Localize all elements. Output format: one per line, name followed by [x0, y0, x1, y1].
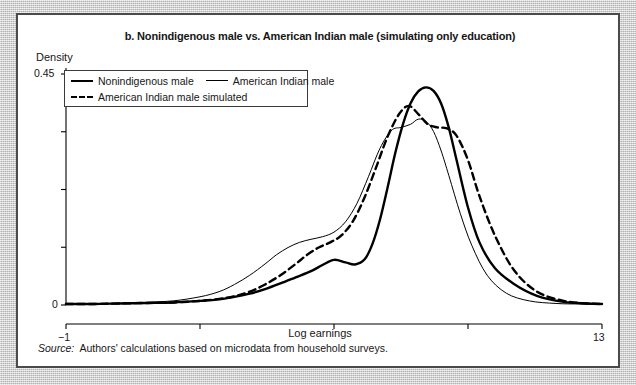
- axis-layer: [61, 68, 602, 329]
- legend-item-american-indian-male-simulated: American Indian male simulated: [71, 91, 247, 103]
- legend-label: American Indian male simulated: [98, 91, 247, 103]
- series-line-american-indian-male: [66, 119, 602, 304]
- legend-item-american-indian-male: American Indian male: [206, 75, 335, 87]
- legend-row-2: American Indian male simulated: [71, 90, 259, 104]
- series-line-nonindigenous-male: [66, 87, 602, 304]
- source-note: Source: Authors' calculations based on m…: [38, 342, 388, 354]
- y-tick-label-max: 0.45: [34, 67, 54, 79]
- x-axis-label: Log earnings: [18, 327, 622, 339]
- source-text: Authors' calculations based on microdata…: [79, 342, 387, 354]
- chart-figure: b. Nonindigenous male vs. American India…: [18, 15, 622, 370]
- legend-line-solid-thin-icon: [206, 76, 228, 86]
- legend-line-solid-thick-icon: [71, 76, 93, 86]
- legend-label: Nonindigenous male: [98, 75, 194, 87]
- series-layer: [66, 87, 602, 304]
- legend-label: American Indian male: [233, 75, 335, 87]
- legend-line-dashed-icon: [71, 92, 93, 102]
- legend-item-nonindigenous-male: Nonindigenous male: [71, 75, 194, 87]
- density-plot: [18, 15, 622, 370]
- y-tick-label-min: 0: [52, 298, 58, 310]
- legend-row-1: Nonindigenous male American Indian male: [71, 74, 346, 88]
- source-prefix: Source:: [38, 342, 74, 354]
- chart-legend: Nonindigenous male American Indian male …: [64, 70, 308, 107]
- figure-panel: b. Nonindigenous male vs. American India…: [16, 13, 620, 368]
- series-line-american-indian-male-simulated: [66, 106, 602, 304]
